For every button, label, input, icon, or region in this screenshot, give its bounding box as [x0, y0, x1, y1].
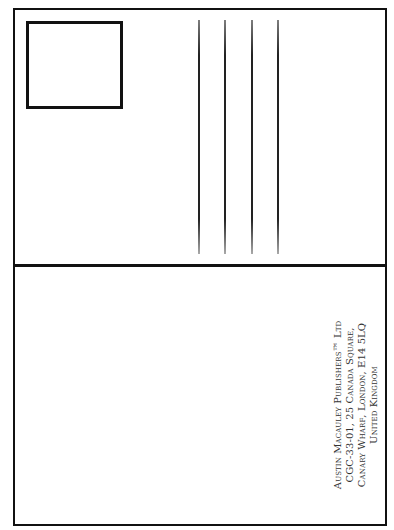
- postcard-divider: [15, 264, 385, 267]
- address-line-2: [224, 20, 226, 254]
- address-line: Canary Wharf, London, E14 5LQ: [356, 321, 368, 489]
- stamp-box: [26, 21, 123, 109]
- address-line-4: [277, 20, 279, 254]
- address-line: CGC-33-01, 25 Canada Square,: [344, 321, 356, 489]
- address-line-1: [198, 20, 200, 254]
- address-line: United Kingdom: [368, 321, 380, 489]
- postcard: Austin Macauley Publishers™ Ltd CGC-33-0…: [13, 8, 387, 526]
- address-line-3: [251, 20, 253, 254]
- recipient-address: Austin Macauley Publishers™ Ltd CGC-33-0…: [332, 321, 380, 489]
- address-line: Austin Macauley Publishers™ Ltd: [332, 321, 344, 489]
